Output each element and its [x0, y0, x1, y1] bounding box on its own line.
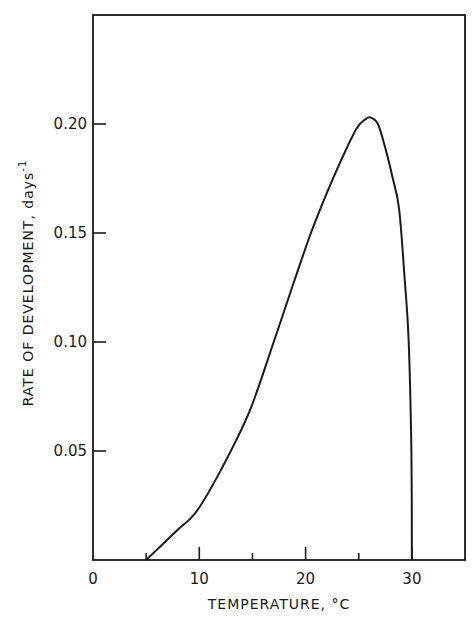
x-tick-label: 30 [402, 570, 421, 588]
y-axis-label-superscript: -1 [17, 160, 28, 172]
y-tick-label: 0.15 [54, 224, 87, 242]
y-tick-label: 0.10 [54, 333, 87, 351]
x-tick-label: 10 [190, 570, 209, 588]
x-tick-label: 0 [88, 570, 98, 588]
y-axis-label: RATE OF DEVELOPMENT, days-1 [17, 160, 36, 407]
y-axis-ticks: 0.050.100.150.20 [54, 115, 106, 460]
plot-frame [93, 15, 465, 560]
x-tick-label: 20 [296, 570, 315, 588]
y-tick-label: 0.05 [54, 442, 87, 460]
y-tick-label: 0.20 [54, 115, 87, 133]
x-axis-label: TEMPERATURE, °C [207, 596, 350, 612]
x-axis-ticks: 0102030 [88, 547, 421, 588]
y-axis-label-text: RATE OF DEVELOPMENT, days [20, 172, 36, 407]
chart: 0.050.100.150.20 0102030 TEMPERATURE, °C… [0, 0, 473, 623]
development-rate-curve [146, 117, 412, 560]
